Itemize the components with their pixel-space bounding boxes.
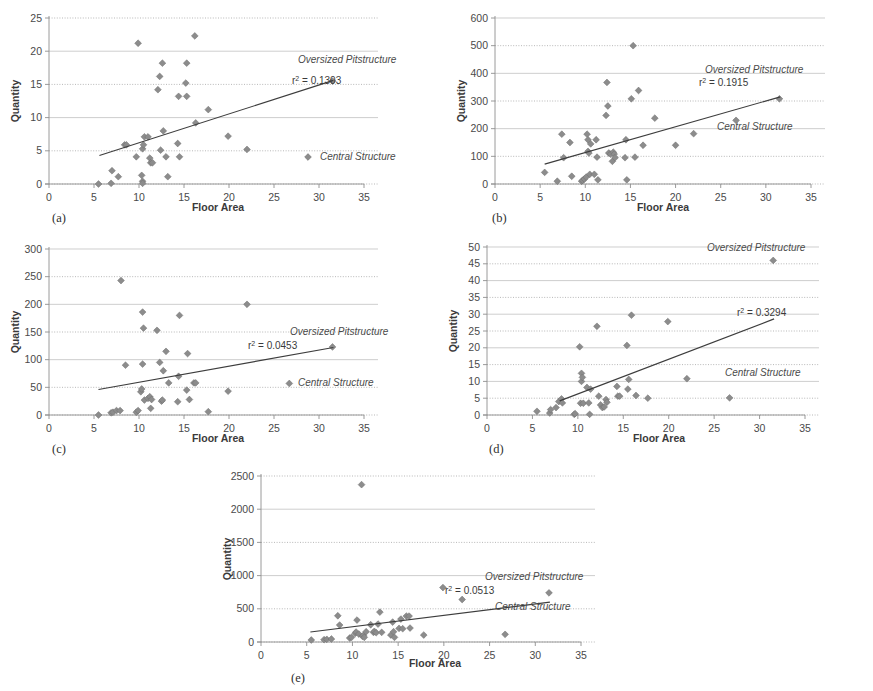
svg-text:5: 5 bbox=[36, 144, 42, 156]
svg-text:10: 10 bbox=[579, 191, 591, 203]
r-squared-label: r2 = 0.1303 bbox=[292, 75, 342, 86]
figure-container: 051015202505101520253035QuantityFloor Ar… bbox=[0, 0, 873, 691]
svg-text:250: 250 bbox=[24, 270, 42, 282]
svg-text:Floor Area: Floor Area bbox=[409, 657, 461, 669]
svg-text:200: 200 bbox=[470, 122, 488, 134]
svg-text:15: 15 bbox=[617, 422, 629, 434]
svg-text:5: 5 bbox=[530, 422, 536, 434]
svg-text:2000: 2000 bbox=[231, 503, 255, 515]
annotation-central-structure: Central Structure bbox=[298, 377, 374, 388]
svg-text:0: 0 bbox=[484, 422, 490, 434]
data-points bbox=[534, 257, 777, 418]
r-squared-label: r2 = 0.3294 bbox=[737, 307, 787, 318]
svg-text:300: 300 bbox=[24, 243, 42, 255]
svg-text:Floor Area: Floor Area bbox=[637, 201, 689, 213]
svg-text:25: 25 bbox=[468, 325, 480, 337]
svg-text:30: 30 bbox=[760, 191, 772, 203]
panel-a-chart: 051015202505101520253035QuantityFloor Ar… bbox=[0, 0, 440, 232]
panel-letter: (a) bbox=[52, 211, 66, 225]
svg-text:30: 30 bbox=[313, 422, 325, 434]
svg-text:100: 100 bbox=[470, 150, 488, 162]
svg-text:Floor Area: Floor Area bbox=[192, 432, 244, 444]
annotation-oversized-pitstructure: Oversized Pitstructure bbox=[707, 242, 806, 253]
data-points bbox=[95, 277, 336, 418]
svg-text:10: 10 bbox=[572, 422, 584, 434]
svg-text:35: 35 bbox=[575, 649, 587, 661]
svg-text:5: 5 bbox=[91, 422, 97, 434]
svg-text:500: 500 bbox=[236, 602, 254, 614]
svg-text:10: 10 bbox=[133, 191, 145, 203]
svg-text:50: 50 bbox=[468, 241, 480, 253]
svg-text:35: 35 bbox=[468, 291, 480, 303]
annotation-oversized-pitstructure: Oversized Pitstructure bbox=[485, 571, 584, 582]
panel-letter: (c) bbox=[52, 442, 66, 456]
panel-b-svg: 010020030040050060005101520253035Quantit… bbox=[437, 0, 873, 232]
svg-text:Floor Area: Floor Area bbox=[192, 201, 244, 213]
r-squared-label: r2 = 0.0513 bbox=[445, 585, 495, 596]
svg-text:0: 0 bbox=[46, 191, 52, 203]
panel-letter: (d) bbox=[489, 442, 504, 456]
svg-text:0: 0 bbox=[474, 409, 480, 421]
panel-letter: (e) bbox=[291, 671, 305, 685]
svg-text:5: 5 bbox=[474, 392, 480, 404]
svg-text:10: 10 bbox=[468, 375, 480, 387]
svg-text:20: 20 bbox=[468, 341, 480, 353]
svg-text:25: 25 bbox=[708, 422, 720, 434]
svg-text:10: 10 bbox=[347, 649, 359, 661]
svg-text:1000: 1000 bbox=[231, 569, 255, 581]
svg-text:Floor Area: Floor Area bbox=[633, 432, 685, 444]
svg-text:Quantity: Quantity bbox=[455, 80, 467, 123]
svg-text:15: 15 bbox=[30, 78, 42, 90]
svg-text:15: 15 bbox=[178, 422, 190, 434]
annotation-oversized-pitstructure: Oversized Pitstructure bbox=[290, 326, 389, 337]
svg-text:Quantity: Quantity bbox=[9, 80, 21, 123]
svg-text:10: 10 bbox=[30, 111, 42, 123]
svg-text:15: 15 bbox=[178, 191, 190, 203]
svg-text:35: 35 bbox=[799, 422, 811, 434]
svg-text:30: 30 bbox=[754, 422, 766, 434]
svg-text:0: 0 bbox=[492, 191, 498, 203]
annotation-oversized-pitstructure: Oversized Pitstructure bbox=[298, 54, 397, 65]
panel-b-chart: 010020030040050060005101520253035Quantit… bbox=[437, 0, 873, 232]
svg-text:0: 0 bbox=[46, 422, 52, 434]
svg-text:2500: 2500 bbox=[231, 470, 255, 482]
svg-text:5: 5 bbox=[304, 649, 310, 661]
svg-text:5: 5 bbox=[537, 191, 543, 203]
svg-text:0: 0 bbox=[482, 178, 488, 190]
annotation-central-structure: Central Structure bbox=[717, 121, 793, 132]
svg-text:30: 30 bbox=[313, 191, 325, 203]
svg-text:200: 200 bbox=[24, 298, 42, 310]
svg-text:40: 40 bbox=[468, 274, 480, 286]
svg-text:0: 0 bbox=[36, 409, 42, 421]
svg-text:15: 15 bbox=[625, 191, 637, 203]
panel-d-svg: 0510152025303540455005101520253035Quanti… bbox=[437, 231, 873, 463]
panel-c-chart: 05010015020025030005101520253035Quantity… bbox=[0, 231, 440, 463]
svg-text:100: 100 bbox=[24, 353, 42, 365]
svg-text:1500: 1500 bbox=[231, 536, 255, 548]
svg-text:15: 15 bbox=[468, 358, 480, 370]
svg-text:25: 25 bbox=[715, 191, 727, 203]
panel-d-chart: 0510152025303540455005101520253035Quanti… bbox=[437, 231, 873, 463]
svg-text:600: 600 bbox=[470, 12, 488, 24]
panel-c-svg: 05010015020025030005101520253035Quantity… bbox=[0, 231, 440, 463]
svg-text:500: 500 bbox=[470, 39, 488, 51]
svg-text:Quantity: Quantity bbox=[9, 311, 21, 354]
svg-text:10: 10 bbox=[133, 422, 145, 434]
svg-text:30: 30 bbox=[468, 308, 480, 320]
panel-e-chart: 0500100015002000250005101520253035Quanti… bbox=[195, 460, 655, 691]
legend-marker-diamond bbox=[305, 154, 312, 161]
svg-text:35: 35 bbox=[358, 422, 370, 434]
svg-text:25: 25 bbox=[30, 12, 42, 24]
panel-a-svg: 051015202505101520253035QuantityFloor Ar… bbox=[0, 0, 440, 232]
panel-e-svg: 0500100015002000250005101520253035Quanti… bbox=[195, 460, 655, 691]
svg-text:45: 45 bbox=[468, 257, 480, 269]
svg-text:25: 25 bbox=[268, 191, 280, 203]
svg-text:15: 15 bbox=[392, 649, 404, 661]
svg-text:300: 300 bbox=[470, 95, 488, 107]
annotation-central-structure: Central Structure bbox=[495, 601, 571, 612]
panel-letter: (b) bbox=[492, 211, 507, 225]
svg-text:35: 35 bbox=[358, 191, 370, 203]
svg-text:Quantity: Quantity bbox=[447, 310, 459, 353]
r-squared-label: r2 = 0.1915 bbox=[699, 77, 749, 88]
svg-text:25: 25 bbox=[484, 649, 496, 661]
